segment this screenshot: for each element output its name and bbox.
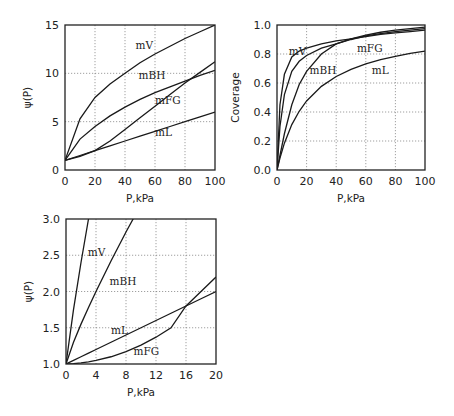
curve-label-mBH: mBH (310, 64, 337, 76)
x-tick-label: 60 (359, 175, 373, 188)
y-tick-label: 3.0 (43, 213, 61, 226)
y-tick-label: 5 (52, 116, 59, 129)
y-tick-label: 1.0 (254, 19, 272, 32)
y-tick-label: 1.5 (43, 322, 61, 335)
y-axis-label: ψ(P) (21, 87, 33, 108)
x-tick-label: 40 (329, 175, 343, 188)
y-axis-label: ψ(P) (22, 281, 34, 302)
y-tick-label: 0.6 (254, 77, 272, 90)
x-tick-label: 80 (388, 175, 402, 188)
x-tick-label: 20 (209, 369, 223, 382)
curve-label-mL: mL (372, 64, 389, 76)
curve-label-mBH: mBH (139, 69, 166, 81)
y-tick-label: 0.0 (254, 164, 272, 177)
curve-label-mL: mL (155, 126, 172, 138)
x-tick-label: 0 (274, 175, 281, 188)
y-tick-label: 0.4 (254, 106, 272, 119)
y-tick-label: 0 (52, 164, 59, 177)
x-axis-label: P,kPa (127, 386, 155, 398)
y-tick-label: 10 (45, 67, 59, 80)
x-axis-label: P,kPa (337, 192, 365, 204)
curve-label-mFG: mFG (155, 94, 181, 106)
curve-label-mFG: mFG (134, 345, 160, 357)
curve-label-mV: mV (136, 39, 154, 51)
curve-label-mV: mV (88, 246, 106, 258)
curve-label-mV: mV (289, 45, 307, 57)
y-tick-label: 1.0 (43, 358, 61, 371)
x-tick-label: 100 (205, 175, 226, 188)
x-tick-label: 16 (179, 369, 193, 382)
curve-label-mBH: mBH (110, 275, 137, 287)
x-tick-label: 20 (300, 175, 314, 188)
curve-mL (277, 51, 425, 170)
x-tick-label: 60 (148, 175, 162, 188)
y-tick-label: 2.5 (43, 249, 61, 262)
curve-label-mFG: mFG (357, 42, 383, 54)
y-tick-label: 15 (45, 19, 59, 32)
x-tick-label: 0 (62, 175, 69, 188)
x-tick-label: 40 (118, 175, 132, 188)
chart-psi-full: mVmBHmFGmL020406080100051015P,kPaψ(P) (21, 19, 226, 204)
y-tick-label: 0.2 (254, 135, 272, 148)
figure: mVmBHmFGmL020406080100051015P,kPaψ(P) mV… (0, 0, 454, 416)
curve-mBH (65, 70, 215, 160)
x-tick-label: 80 (178, 175, 192, 188)
chart-psi-low: mVmBHmLmFG0481216201.01.52.02.53.0P,kPaψ… (22, 205, 223, 399)
y-axis-label: Coverage (229, 72, 241, 122)
curve-mL (65, 112, 215, 160)
x-tick-label: 100 (415, 175, 436, 188)
x-tick-label: 20 (88, 175, 102, 188)
x-tick-label: 0 (63, 369, 70, 382)
y-tick-label: 0.8 (254, 48, 272, 61)
chart-coverage: mVmBHmFGmL0204060801000.00.20.40.60.81.0… (229, 19, 436, 204)
x-tick-label: 8 (123, 369, 130, 382)
y-tick-label: 2.0 (43, 286, 61, 299)
x-tick-label: 4 (93, 369, 100, 382)
x-axis-label: P,kPa (126, 192, 154, 204)
x-tick-label: 12 (149, 369, 163, 382)
curve-label-mL: mL (111, 324, 128, 336)
